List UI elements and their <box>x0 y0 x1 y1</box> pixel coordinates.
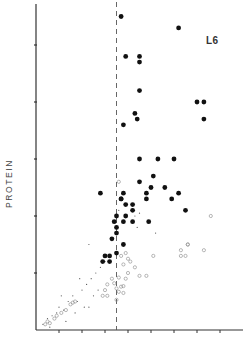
data-point-filled <box>144 191 149 196</box>
data-point-filled <box>202 117 207 122</box>
data-point-filled <box>176 26 181 31</box>
data-point-filled <box>98 191 103 196</box>
data-point-filled <box>103 254 108 259</box>
data-point-filled <box>121 191 126 196</box>
data-point-open <box>122 263 125 266</box>
data-point-dot <box>84 307 85 308</box>
data-point-open <box>117 290 120 293</box>
data-point-dot <box>98 290 99 291</box>
data-point-filled <box>172 157 177 162</box>
data-point-filled <box>119 197 124 202</box>
data-point-dot <box>52 315 53 316</box>
data-point-dot <box>49 327 50 328</box>
data-point-filled <box>114 251 119 256</box>
data-point-open <box>145 274 148 277</box>
data-point-open <box>209 214 212 217</box>
data-point-filled <box>183 208 188 213</box>
data-point-filled <box>121 122 126 127</box>
data-point-dot <box>93 295 94 296</box>
data-point-open <box>179 254 182 257</box>
data-point-filled <box>202 100 207 105</box>
data-point-dot <box>81 290 82 291</box>
data-point-dot <box>88 307 89 308</box>
data-point-open <box>120 254 123 257</box>
data-point-open <box>106 283 109 286</box>
data-point-open <box>103 289 106 292</box>
data-point-dot <box>65 321 66 322</box>
data-point-dot <box>47 318 48 319</box>
data-point-filled <box>130 202 135 207</box>
data-point-dot <box>100 267 101 268</box>
data-point-open <box>152 254 155 257</box>
data-point-dot <box>155 233 156 234</box>
y-axis-label-text: PROTEIN <box>4 159 14 208</box>
data-point-dot <box>118 210 119 211</box>
data-point-filled <box>169 197 174 202</box>
data-point-open <box>44 323 47 326</box>
data-point-filled <box>156 157 161 162</box>
data-point-open <box>122 291 125 294</box>
data-point-open <box>126 271 129 274</box>
data-point-open <box>110 277 113 280</box>
data-point-open <box>124 251 127 254</box>
data-point-open <box>60 311 63 314</box>
data-point-dot <box>68 301 69 302</box>
data-point-dot <box>134 215 135 216</box>
data-point-open <box>64 308 67 311</box>
data-point-filled <box>121 242 126 247</box>
data-point-filled <box>149 185 154 190</box>
data-point-filled <box>100 259 105 264</box>
data-point-open <box>129 260 132 263</box>
data-point-open <box>117 180 120 183</box>
data-point-dot <box>72 295 73 296</box>
data-point-filled <box>137 54 142 59</box>
data-point-filled <box>114 231 119 236</box>
data-point-filled <box>114 225 119 230</box>
data-point-dot <box>58 307 59 308</box>
data-point-filled <box>119 14 124 19</box>
data-point-filled <box>130 208 135 213</box>
data-point-open <box>133 266 136 269</box>
data-point-filled <box>123 214 128 219</box>
data-point-filled <box>123 54 128 59</box>
data-point-filled <box>137 88 142 93</box>
data-point-open <box>126 257 129 260</box>
data-point-open <box>179 249 182 252</box>
series-filled-circles <box>98 14 206 264</box>
data-point-dot <box>91 278 92 279</box>
data-point-filled <box>110 236 115 241</box>
data-point-filled <box>123 202 128 207</box>
data-point-dot <box>139 213 140 214</box>
scatter-plot <box>0 0 243 346</box>
data-point-dot <box>79 278 80 279</box>
data-point-filled <box>137 179 142 184</box>
data-point-open <box>53 317 56 320</box>
data-point-filled <box>112 219 117 224</box>
data-point-filled <box>146 219 151 224</box>
data-point-open <box>101 294 104 297</box>
data-point-open <box>184 254 187 257</box>
data-point-open <box>106 294 109 297</box>
data-point-filled <box>162 185 167 190</box>
data-point-open <box>202 249 205 252</box>
data-point-open <box>55 314 58 317</box>
data-point-filled <box>195 100 200 105</box>
data-point-filled <box>114 214 119 219</box>
data-point-filled <box>135 117 140 122</box>
data-point-open <box>48 322 51 325</box>
data-point-open <box>138 274 141 277</box>
data-point-dot <box>75 312 76 313</box>
panel-label: L6 <box>206 35 219 46</box>
data-point-open <box>186 243 189 246</box>
data-point-open <box>113 282 116 285</box>
axes <box>34 4 243 333</box>
data-point-dot <box>61 295 62 296</box>
data-point-dot <box>137 227 138 228</box>
data-point-filled <box>137 157 142 162</box>
data-point-filled <box>133 111 138 116</box>
data-point-open <box>117 276 120 279</box>
data-point-filled <box>130 219 135 224</box>
data-point-filled <box>151 174 156 179</box>
data-point-filled <box>137 60 142 65</box>
y-axis-label: PROTEIN <box>2 140 16 210</box>
